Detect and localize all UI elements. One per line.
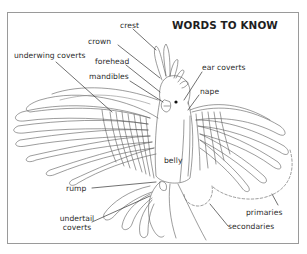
label-undertail-coverts-line2: coverts — [57, 223, 97, 232]
label-secondaries: secondaries — [228, 223, 274, 231]
leader-lines — [56, 29, 278, 226]
secondaries-bracket — [184, 186, 212, 206]
label-crown: crown — [88, 38, 111, 46]
label-primaries: primaries — [246, 209, 282, 217]
right-wing — [180, 105, 288, 192]
label-underwing-coverts: underwing coverts — [14, 52, 86, 60]
label-nape: nape — [200, 88, 219, 96]
label-rump: rump — [66, 185, 86, 193]
left-wing — [14, 88, 158, 186]
label-crest: crest — [120, 22, 139, 30]
label-belly: belly — [164, 157, 182, 165]
label-forehead: forehead — [95, 58, 129, 66]
label-ear-coverts: ear coverts — [202, 64, 245, 72]
diagram-title: WORDS TO KNOW — [172, 19, 278, 31]
label-mandibles: mandibles — [89, 73, 129, 81]
label-undertail-coverts-line1: undertail — [57, 214, 97, 223]
label-undertail-coverts: undertail coverts — [57, 214, 97, 232]
